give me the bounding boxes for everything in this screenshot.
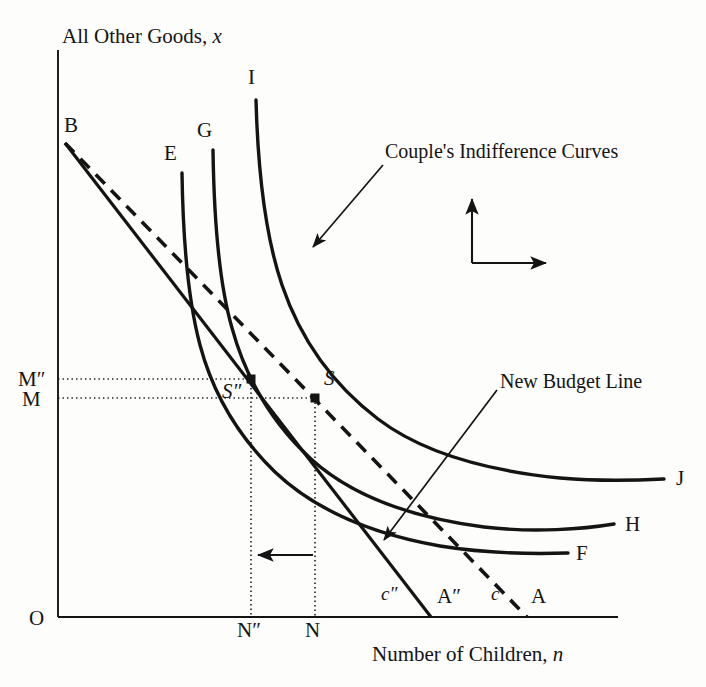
budget-slope-label-c-double-prime: c″ bbox=[381, 584, 397, 603]
budget-line-original bbox=[65, 143, 527, 617]
new-budget-line-annotation: New Budget Line bbox=[500, 371, 642, 391]
origin-label: O bbox=[29, 608, 44, 629]
equilibrium-label-s-double-prime: S″ bbox=[222, 381, 241, 402]
indifference-curve-figure: All Other Goods, x Number of Children, n… bbox=[0, 0, 706, 687]
tick-label-n: N bbox=[305, 620, 320, 641]
budget-slope-label-c: c bbox=[491, 584, 499, 603]
indifference-curve-gh bbox=[213, 150, 614, 530]
equilibrium-point-s bbox=[311, 394, 320, 403]
tick-label-m: M bbox=[22, 389, 41, 410]
curve-label-f: F bbox=[576, 543, 588, 564]
curve-label-i: I bbox=[248, 67, 255, 88]
y-axis-title: All Other Goods, x bbox=[62, 26, 222, 47]
budget-intercept-label-b: B bbox=[64, 115, 78, 136]
curve-label-e: E bbox=[164, 143, 177, 164]
curve-label-g: G bbox=[197, 120, 212, 141]
indifference-curves-callout-arrow bbox=[313, 165, 383, 247]
utility-direction-axes-icon bbox=[472, 199, 546, 263]
diagram-canvas bbox=[0, 0, 706, 687]
curve-label-j: J bbox=[676, 468, 684, 489]
tick-label-n-double-prime: N″ bbox=[237, 620, 261, 641]
x-axis-title: Number of Children, n bbox=[372, 644, 563, 665]
curve-label-h: H bbox=[625, 514, 640, 535]
equilibrium-point-s-double-prime bbox=[247, 375, 256, 384]
indifference-curves-annotation: Couple's Indifference Curves bbox=[385, 141, 618, 161]
equilibrium-label-s: S bbox=[324, 368, 335, 389]
axis-lines bbox=[58, 50, 618, 617]
budget-intercept-label-a: A bbox=[531, 586, 546, 607]
budget-intercept-label-a-double-prime: A″ bbox=[437, 586, 461, 607]
indifference-curve-ef bbox=[182, 173, 568, 553]
